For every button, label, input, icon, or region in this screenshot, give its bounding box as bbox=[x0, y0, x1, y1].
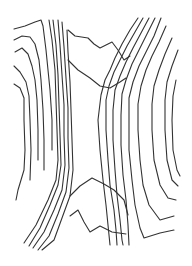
contour-line bbox=[29, 20, 61, 246]
contour-line bbox=[98, 18, 138, 245]
contour-lines-graphic bbox=[0, 0, 192, 266]
bottom-center-contour-group bbox=[70, 178, 128, 234]
contour-drawing: Line drawing of contour lines forming an… bbox=[0, 0, 192, 266]
contour-line bbox=[172, 80, 180, 176]
right-contour-group bbox=[98, 18, 180, 245]
contour-line bbox=[14, 84, 25, 200]
contour-line bbox=[70, 210, 126, 234]
contour-line bbox=[24, 20, 58, 243]
contour-line bbox=[70, 178, 128, 215]
contour-line bbox=[14, 20, 52, 150]
contour-line bbox=[14, 66, 31, 180]
contour-line bbox=[15, 48, 38, 160]
left-contour-group bbox=[14, 20, 73, 250]
contour-line bbox=[68, 30, 130, 60]
contour-line bbox=[138, 26, 174, 220]
